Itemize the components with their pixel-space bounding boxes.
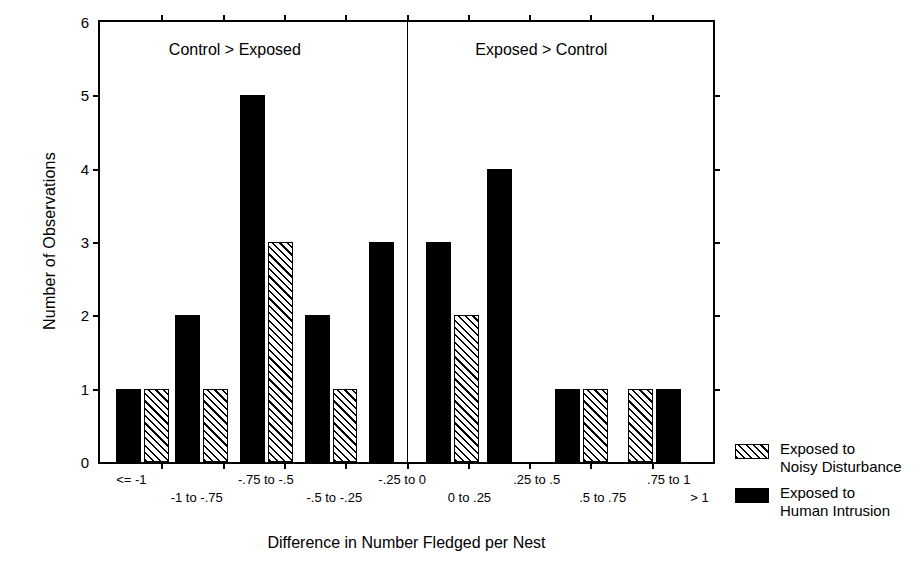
- bar-human-2: [305, 315, 330, 462]
- x-tick-mark-top: [345, 15, 347, 22]
- x-tick-label: -1 to -.75: [171, 490, 223, 505]
- region-annotation: Exposed > Control: [475, 41, 607, 59]
- x-tick-label: .75 to 1: [647, 472, 690, 487]
- zero-divider-line: [407, 22, 408, 462]
- y-tick-mark: [93, 242, 100, 244]
- y-tick-label: 6: [81, 14, 89, 31]
- y-tick-mark: [93, 315, 100, 317]
- bar-human-5: [240, 95, 265, 462]
- legend-swatch-solid-icon: [735, 488, 769, 503]
- y-tick-label: 2: [81, 307, 89, 324]
- x-tick-label: 0 to .25: [448, 490, 491, 505]
- bar-human-3: [369, 242, 394, 462]
- x-tick-mark-top: [223, 15, 225, 22]
- bar-human-2: [175, 315, 200, 462]
- y-tick-mark-right: [713, 389, 720, 391]
- x-tick-mark-top: [161, 15, 163, 22]
- legend-label-human-intrusion: Exposed to Human Intrusion: [780, 484, 890, 520]
- x-tick-mark-top: [590, 15, 592, 22]
- y-tick-label: 1: [81, 380, 89, 397]
- bar-human-1: [656, 389, 681, 462]
- bar-noisy-1: [628, 389, 653, 462]
- legend: Exposed to Noisy Disturbance Exposed to …: [735, 440, 924, 528]
- x-tick-mark-bottom: [407, 462, 409, 469]
- y-tick-mark-right: [713, 315, 720, 317]
- y-tick-label: 4: [81, 160, 89, 177]
- y-tick-mark-right: [713, 169, 720, 171]
- legend-label-noisy-disturbance: Exposed to Noisy Disturbance: [780, 440, 902, 476]
- x-tick-mark-top: [407, 15, 409, 22]
- x-tick-mark-top: [529, 15, 531, 22]
- bar-noisy-1: [583, 389, 608, 462]
- bar-noisy-1: [203, 389, 228, 462]
- bar-human-4: [487, 169, 512, 462]
- bar-human-1: [116, 389, 141, 462]
- bar-noisy-3: [268, 242, 293, 462]
- x-tick-mark-bottom: [284, 462, 286, 469]
- legend-item-noisy-disturbance: Exposed to Noisy Disturbance: [735, 440, 924, 476]
- y-axis-title: Number of Observations: [41, 41, 59, 441]
- x-tick-mark-top: [652, 15, 654, 22]
- x-tick-mark-bottom: [529, 462, 531, 469]
- x-tick-label: <= -1: [116, 472, 146, 487]
- x-tick-mark-top: [468, 15, 470, 22]
- x-tick-label: > 1: [690, 490, 708, 505]
- x-tick-label: -.75 to -.5: [238, 472, 294, 487]
- y-tick-mark-right: [713, 95, 720, 97]
- y-tick-mark: [93, 95, 100, 97]
- histogram-figure: Number of Observations 0123456 Control >…: [0, 0, 924, 566]
- x-tick-mark-bottom: [468, 462, 470, 469]
- y-tick-label: 5: [81, 87, 89, 104]
- bar-noisy-2: [454, 315, 479, 462]
- legend-swatch-hatch-icon: [735, 444, 769, 459]
- bar-noisy-1: [144, 389, 169, 462]
- region-annotation: Control > Exposed: [169, 41, 301, 59]
- x-tick-mark-bottom: [161, 462, 163, 469]
- x-tick-label: .5 to .75: [579, 490, 626, 505]
- x-tick-mark-bottom: [223, 462, 225, 469]
- x-tick-mark-bottom: [345, 462, 347, 469]
- x-tick-mark-bottom: [652, 462, 654, 469]
- x-tick-label: .25 to .5: [513, 472, 560, 487]
- y-tick-mark: [93, 389, 100, 391]
- x-axis-title: Difference in Number Fledged per Nest: [98, 534, 715, 552]
- y-tick-label: 3: [81, 234, 89, 251]
- x-tick-mark-bottom: [590, 462, 592, 469]
- bar-human-3: [426, 242, 451, 462]
- plot-area: 0123456 Control > ExposedExposed > Contr…: [98, 20, 715, 464]
- bar-human-1: [555, 389, 580, 462]
- y-tick-label: 0: [81, 454, 89, 471]
- x-tick-mark-top: [284, 15, 286, 22]
- x-tick-label: -.5 to -.25: [306, 490, 362, 505]
- x-tick-label: -.25 to 0: [378, 472, 426, 487]
- y-tick-mark-right: [713, 242, 720, 244]
- legend-item-human-intrusion: Exposed to Human Intrusion: [735, 484, 924, 520]
- bar-noisy-1: [333, 389, 358, 462]
- y-tick-mark: [93, 169, 100, 171]
